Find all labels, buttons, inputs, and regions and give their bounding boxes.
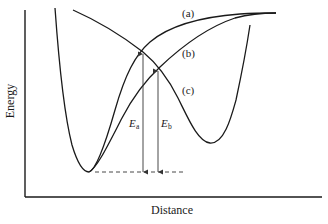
y-axis-label: Energy xyxy=(3,84,17,118)
curve-c-label: (c) xyxy=(182,84,195,97)
left-well-inner-wall xyxy=(55,8,89,172)
energy-label-a: E a xyxy=(128,117,140,131)
curve-a-label: (a) xyxy=(182,7,195,20)
svg-text:a: a xyxy=(136,122,140,131)
svg-text:b: b xyxy=(168,122,172,131)
potential-energy-diagram: (a) (b) (c) E a E b Distance Energy xyxy=(0,0,328,224)
svg-text:E: E xyxy=(160,117,168,129)
curve-b-label: (b) xyxy=(182,47,195,60)
x-axis-label: Distance xyxy=(151,203,193,217)
energy-label-b: E b xyxy=(160,117,172,131)
svg-text:E: E xyxy=(128,117,136,129)
